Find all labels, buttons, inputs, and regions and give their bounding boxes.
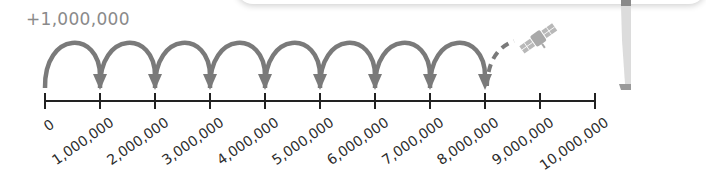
arrowhead-icon [93, 74, 107, 90]
dashed-jump-path [487, 41, 514, 86]
arrowhead-icon [258, 74, 272, 90]
jump-arc [375, 43, 430, 88]
arrowhead-icon [148, 74, 162, 90]
arrowhead-icon [313, 74, 327, 90]
jump-arc [100, 43, 155, 88]
jump-arc [210, 43, 265, 88]
jump-arc [320, 43, 375, 88]
jump-arc [45, 43, 100, 88]
person-figure [619, 0, 633, 92]
arrowhead-icon [478, 74, 492, 90]
jump-arc [265, 43, 320, 88]
arrowhead-icon [368, 74, 382, 90]
satellite-icon [518, 22, 561, 60]
arrowhead-icon [423, 74, 437, 90]
arrowhead-icon [203, 74, 217, 90]
jump-arc [155, 43, 210, 88]
jump-arc [430, 43, 485, 88]
